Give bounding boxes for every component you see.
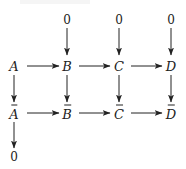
node-zero-top-B: 0 [63,14,71,26]
node-C: C [114,60,124,73]
node-B: B [62,60,72,73]
node-C-bar: C [114,108,124,121]
arrows-layer [0,0,186,169]
node-D-bar: D [166,108,176,121]
node-zero-top-C: 0 [115,14,123,26]
node-A-bar: A [9,108,18,121]
node-zero-bottom-A: 0 [10,151,18,163]
overline-B: B [62,108,72,121]
overline-C: C [114,108,124,121]
node-D: D [166,60,176,73]
overline-D: D [166,108,176,121]
node-zero-top-D: 0 [167,14,175,26]
commutative-diagram: 0 0 0 A B C D A B C D 0 [0,0,186,169]
node-B-bar: B [62,108,72,121]
overline-A: A [9,108,18,121]
node-A: A [9,60,18,73]
